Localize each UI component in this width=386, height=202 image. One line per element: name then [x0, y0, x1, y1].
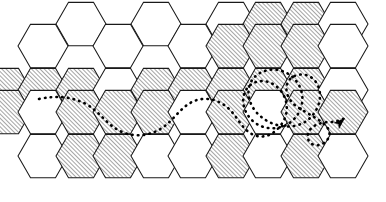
hexagon-cell	[318, 134, 368, 177]
hexagon-grid-figure: Hexagonal cell grid with dotted trajecto…	[0, 0, 386, 202]
hexagon-grid-canvas	[0, 0, 386, 202]
hexagon-cell-layer	[0, 2, 368, 177]
